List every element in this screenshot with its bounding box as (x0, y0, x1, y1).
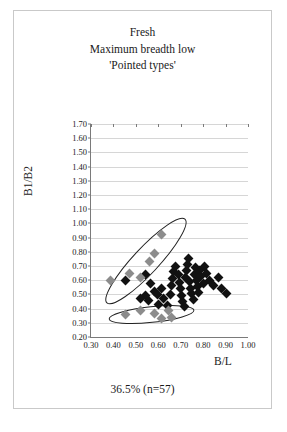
y-axis-tick-label: 0.30 (72, 319, 87, 328)
y-axis-tick-mark (88, 195, 91, 196)
gridline (91, 152, 248, 153)
y-axis-tick-label: 1.20 (72, 191, 87, 200)
data-point-marker (135, 305, 145, 315)
x-axis-tick-label: 0.70 (173, 341, 188, 350)
data-point-marker (121, 310, 131, 320)
x-axis-tick-mark (248, 124, 249, 127)
y-axis-tick-label: 0.50 (72, 290, 87, 299)
y-axis-tick-label: 1.70 (72, 120, 87, 129)
y-axis-tick-mark (88, 294, 91, 295)
y-axis-tick-mark (88, 280, 91, 281)
gridline (91, 223, 248, 224)
y-axis-tick-mark (88, 308, 91, 309)
y-axis-tick-label: 1.40 (72, 162, 87, 171)
y-axis-tick-mark (88, 209, 91, 210)
gridline (91, 181, 248, 182)
x-axis-tick-mark (158, 124, 159, 127)
y-axis-tick-label: 0.40 (72, 304, 87, 313)
y-axis-tick-label: 1.00 (72, 219, 87, 228)
chart-title-block: Fresh Maximum breadth low 'Pointed types… (13, 24, 272, 74)
y-axis-tick-mark (88, 322, 91, 323)
gridline (91, 323, 248, 324)
gridline (91, 167, 248, 168)
y-axis-tick-mark (88, 152, 91, 153)
y-axis-tick-mark (88, 251, 91, 252)
y-axis-title: B1/B2 (22, 166, 34, 196)
data-point-marker (222, 289, 232, 299)
y-axis-tick-label: 1.10 (72, 205, 87, 214)
x-axis-tick-mark (203, 124, 204, 127)
x-axis-tick-label: 0.90 (218, 341, 233, 350)
gridline (91, 238, 248, 239)
data-point-marker (105, 275, 115, 285)
x-axis-tick-mark (181, 124, 182, 127)
y-axis-tick-label: 1.60 (72, 134, 87, 143)
x-axis-tick-label: 0.80 (196, 341, 211, 350)
y-axis-tick-mark (88, 337, 91, 338)
y-axis-tick-label: 0.70 (72, 262, 87, 271)
y-axis-tick-mark (88, 166, 91, 167)
gridline (91, 252, 248, 253)
y-axis-tick-label: 0.80 (72, 248, 87, 257)
y-axis-tick-mark (88, 180, 91, 181)
x-axis-tick-label: 0.40 (106, 341, 121, 350)
y-axis-tick-label: 1.50 (72, 148, 87, 157)
gridline (91, 195, 248, 196)
x-axis-tick-mark (91, 124, 92, 127)
title-line-1: Fresh (13, 24, 272, 41)
y-axis-tick-label: 0.90 (72, 233, 87, 242)
x-axis-title: B/L (214, 355, 232, 367)
gridline (91, 209, 248, 210)
chart-caption: 36.5% (n=57) (13, 383, 272, 395)
x-axis-tick-mark (226, 124, 227, 127)
data-point-marker (150, 248, 160, 258)
y-axis-tick-mark (88, 138, 91, 139)
y-axis-tick-mark (88, 266, 91, 267)
title-line-2: Maximum breadth low (13, 41, 272, 58)
x-axis-tick-mark (136, 124, 137, 127)
x-axis-tick-mark (113, 124, 114, 127)
scatter-plot: 0.200.300.400.500.600.700.800.901.001.10… (90, 124, 248, 338)
x-axis-tick-label: 0.60 (151, 341, 166, 350)
x-axis-tick-label: 0.50 (128, 341, 143, 350)
title-line-3: 'Pointed types' (13, 57, 272, 74)
y-axis-tick-mark (88, 237, 91, 238)
gridline (91, 138, 248, 139)
y-axis-tick-label: 0.60 (72, 276, 87, 285)
x-axis-tick-label: 0.30 (84, 341, 99, 350)
y-axis-tick-mark (88, 223, 91, 224)
y-axis-tick-label: 1.30 (72, 177, 87, 186)
plot-area: 0.200.300.400.500.600.700.800.901.001.10… (90, 124, 248, 338)
x-axis-tick-label: 1.00 (241, 341, 256, 350)
gridline (91, 124, 248, 125)
